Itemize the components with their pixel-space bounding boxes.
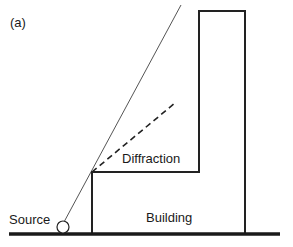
panel-label: (a) — [10, 15, 26, 30]
source-label: Source — [9, 212, 50, 227]
building-label: Building — [146, 210, 192, 225]
source-icon — [57, 221, 69, 233]
diffraction-label: Diffraction — [122, 151, 180, 166]
building-outline — [92, 11, 245, 234]
diffraction-diagram: (a) Source Building Diffraction — [0, 0, 293, 247]
